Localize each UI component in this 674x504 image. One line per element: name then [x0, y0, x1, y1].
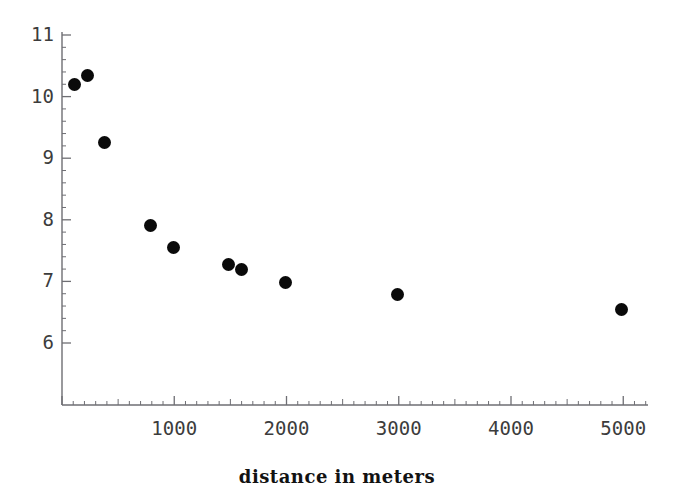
data-point — [81, 69, 94, 82]
y-tick-label-10: 10 — [10, 87, 54, 106]
x-axis-title: distance in meters — [0, 466, 674, 487]
x-tick-label-3000: 3000 — [354, 419, 444, 438]
y-tick-label-6: 6 — [10, 333, 54, 352]
data-point — [222, 258, 235, 271]
scatter-plot-figure: 11109876 10002000300040005000 distance i… — [0, 0, 674, 504]
x-tick-label-1000: 1000 — [129, 419, 219, 438]
x-axis-ticks — [62, 396, 646, 405]
x-tick-label-4000: 4000 — [466, 419, 556, 438]
plot-area: 11109876 10002000300040005000 — [0, 0, 674, 504]
axes-svg — [0, 0, 674, 504]
data-point — [615, 303, 628, 316]
data-point — [144, 219, 157, 232]
x-tick-label-5000: 5000 — [578, 419, 668, 438]
x-tick-label-2000: 2000 — [242, 419, 332, 438]
y-tick-label-11: 11 — [10, 25, 54, 44]
data-point — [167, 241, 180, 254]
data-point — [235, 263, 248, 276]
data-point — [279, 276, 292, 289]
y-tick-label-9: 9 — [10, 148, 54, 167]
y-tick-label-8: 8 — [10, 210, 54, 229]
y-tick-label-7: 7 — [10, 271, 54, 290]
data-point — [68, 78, 81, 91]
data-point — [391, 288, 404, 301]
